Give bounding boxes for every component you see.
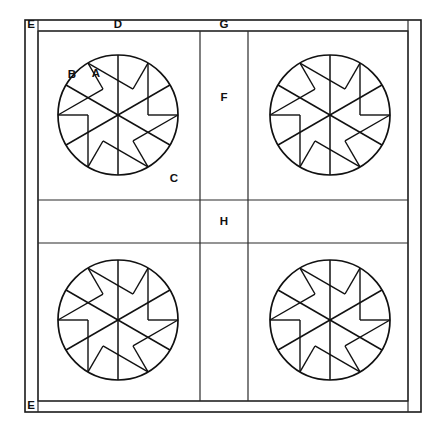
rotor-bottom-right — [270, 260, 390, 380]
reference-label-e: E — [27, 18, 35, 30]
reference-label-c: C — [170, 172, 178, 184]
reference-label-f: F — [220, 91, 227, 103]
reference-label-b: B — [68, 68, 76, 80]
rotor-bottom-left — [58, 260, 178, 380]
reference-label-d: D — [114, 18, 122, 30]
figure-canvas: EDGABCFHE — [0, 0, 446, 430]
rotor-top-right — [270, 55, 390, 175]
reference-label-g: G — [220, 18, 229, 30]
reference-label-h: H — [220, 215, 228, 227]
reference-label-a: A — [92, 67, 100, 79]
technical-drawing-figure: EDGABCFHE — [0, 0, 446, 430]
reference-label-e2: E — [27, 399, 35, 411]
